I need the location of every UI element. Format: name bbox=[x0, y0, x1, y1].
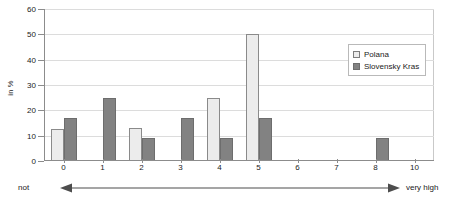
scale-annotation: not very high bbox=[0, 180, 458, 198]
bar-slovensky-kras-4 bbox=[220, 138, 233, 161]
chart-figure: in % 0102030405060 01234567810 Polana Sl… bbox=[0, 0, 458, 205]
x-tick-label: 4 bbox=[217, 163, 221, 172]
legend-swatch-icon-polana bbox=[353, 51, 360, 58]
bar-polana-2 bbox=[129, 128, 142, 161]
plot-area: 0102030405060 bbox=[44, 9, 434, 161]
legend-label-slovensky-kras: Slovensky Kras bbox=[364, 62, 419, 71]
scale-low-label: not bbox=[18, 183, 29, 192]
y-tick-label: 40 bbox=[27, 55, 36, 64]
y-axis-line bbox=[44, 9, 45, 161]
x-tick-label: 8 bbox=[373, 163, 377, 172]
y-tick-label: 30 bbox=[27, 81, 36, 90]
double-headed-arrow-icon bbox=[60, 182, 400, 194]
legend-item-polana[interactable]: Polana bbox=[353, 48, 419, 60]
bar-polana-0 bbox=[51, 129, 64, 161]
bar-slovensky-kras-1 bbox=[103, 98, 116, 161]
gridline bbox=[44, 9, 434, 10]
x-tick-label: 3 bbox=[178, 163, 182, 172]
y-tick-label: 20 bbox=[27, 106, 36, 115]
y-axis-tick bbox=[38, 161, 44, 162]
x-tick-label: 1 bbox=[100, 163, 104, 172]
gridline bbox=[44, 85, 434, 86]
x-tick-labels-group: 01234567810 bbox=[44, 163, 434, 177]
y-tick-label: 50 bbox=[27, 30, 36, 39]
bar-slovensky-kras-0 bbox=[64, 118, 77, 161]
y-tick-label: 0 bbox=[32, 157, 36, 166]
x-tick-label: 0 bbox=[61, 163, 65, 172]
x-tick-label: 2 bbox=[139, 163, 143, 172]
legend-label-polana: Polana bbox=[364, 50, 389, 59]
gridline bbox=[44, 34, 434, 35]
x-tick-label: 10 bbox=[410, 163, 419, 172]
bar-polana-4 bbox=[207, 98, 220, 161]
bar-slovensky-kras-3 bbox=[181, 118, 194, 161]
chart-legend: Polana Slovensky Kras bbox=[348, 44, 426, 76]
x-tick-label: 6 bbox=[295, 163, 299, 172]
x-tick-label: 5 bbox=[256, 163, 260, 172]
x-tick-label: 7 bbox=[334, 163, 338, 172]
bar-slovensky-kras-8 bbox=[376, 138, 389, 161]
legend-swatch-icon-slovensky-kras bbox=[353, 63, 360, 70]
y-axis-title: in % bbox=[6, 58, 15, 118]
scale-high-label: very high bbox=[406, 183, 438, 192]
bar-slovensky-kras-5 bbox=[259, 118, 272, 161]
legend-item-slovensky-kras[interactable]: Slovensky Kras bbox=[353, 60, 419, 72]
y-tick-label: 10 bbox=[27, 131, 36, 140]
bar-slovensky-kras-2 bbox=[142, 138, 155, 161]
y-tick-label: 60 bbox=[27, 5, 36, 14]
bar-polana-5 bbox=[246, 34, 259, 161]
